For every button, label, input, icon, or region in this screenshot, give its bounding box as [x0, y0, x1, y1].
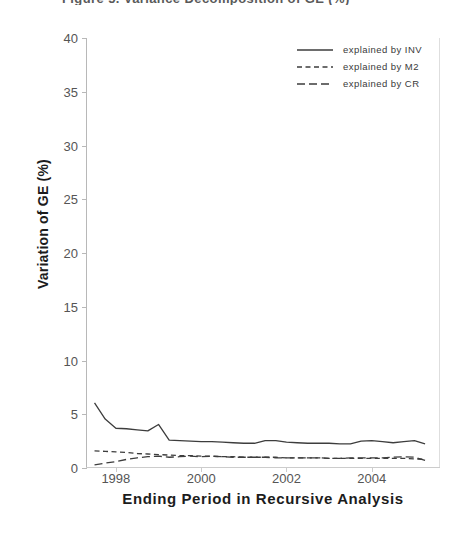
- y-tick-label: 5: [48, 408, 78, 421]
- y-tick-label: 25: [48, 193, 78, 206]
- chart-legend: explained by INVexplained by M2explained…: [296, 42, 444, 93]
- y-tick-mark: [82, 414, 87, 415]
- series-line: [95, 403, 426, 444]
- y-tick-label: 15: [48, 301, 78, 314]
- y-axis-label: Variation of GE (%): [35, 104, 51, 344]
- y-tick-mark: [82, 199, 87, 200]
- y-tick-label: 35: [48, 86, 78, 99]
- plot-area: [86, 38, 440, 468]
- x-axis-label: Ending Period in Recursive Analysis: [86, 490, 440, 507]
- y-tick-mark: [82, 307, 87, 308]
- y-tick-mark: [82, 361, 87, 362]
- y-tick-mark: [82, 253, 87, 254]
- series-plot: [86, 38, 440, 468]
- chart-figure: Figure 5. Variance Decomposition of GE (…: [0, 0, 464, 540]
- legend-label: explained by CR: [343, 78, 419, 89]
- legend-line-swatch: [296, 79, 334, 89]
- legend-label: explained by M2: [343, 61, 419, 72]
- legend-line-swatch: [296, 45, 334, 55]
- legend-label: explained by INV: [343, 44, 422, 55]
- x-tick-label: 2002: [272, 472, 301, 485]
- x-tick-label: 2004: [357, 472, 386, 485]
- legend-item[interactable]: explained by M2: [296, 59, 444, 74]
- y-tick-label: 20: [48, 247, 78, 260]
- y-tick-label: 10: [48, 355, 78, 368]
- x-axis-tick-labels: 1998200020022004: [86, 472, 440, 490]
- y-tick-mark: [82, 38, 87, 39]
- y-tick-label: 30: [48, 140, 78, 153]
- x-tick-label: 2000: [187, 472, 216, 485]
- y-tick-label: 40: [48, 32, 78, 45]
- x-tick-label: 1998: [101, 472, 130, 485]
- legend-item[interactable]: explained by CR: [296, 76, 444, 91]
- y-tick-mark: [82, 146, 87, 147]
- clipped-title-text: Figure 5. Variance Decomposition of GE (…: [62, 0, 402, 5]
- y-tick-label: 0: [48, 462, 78, 475]
- legend-line-swatch: [296, 62, 334, 72]
- legend-item[interactable]: explained by INV: [296, 42, 444, 57]
- y-tick-mark: [82, 92, 87, 93]
- y-tick-mark: [82, 468, 87, 469]
